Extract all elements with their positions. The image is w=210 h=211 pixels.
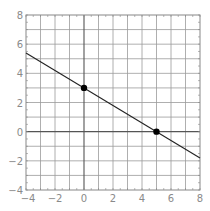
data-point — [153, 128, 159, 134]
grid-lines — [26, 15, 200, 190]
data-point — [81, 85, 87, 91]
y-tick-label: 4 — [17, 68, 23, 79]
x-tick-label: 4 — [139, 193, 145, 204]
x-tick-label: 6 — [168, 193, 174, 204]
y-tick-label: 2 — [17, 98, 23, 109]
x-axis-tick-labels: −4−202468 — [21, 193, 204, 204]
y-tick-label: 6 — [17, 39, 23, 50]
line-chart: −4−202468 −4−202468 — [0, 0, 210, 211]
y-tick-label: 8 — [17, 10, 23, 21]
y-axis-tick-labels: −4−202468 — [8, 10, 23, 196]
y-tick-label: −4 — [8, 185, 23, 196]
y-tick-label: −2 — [8, 156, 23, 167]
x-tick-label: −2 — [48, 193, 63, 204]
y-tick-label: 0 — [17, 127, 23, 138]
x-tick-label: 8 — [197, 193, 203, 204]
x-tick-label: 2 — [110, 193, 116, 204]
x-tick-label: 0 — [81, 193, 87, 204]
